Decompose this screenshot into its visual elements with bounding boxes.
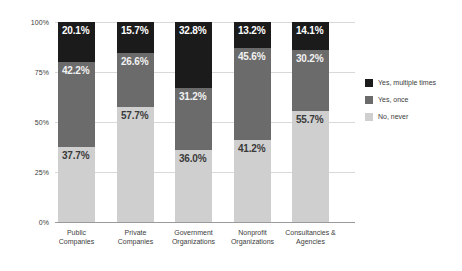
legend-swatch-icon bbox=[365, 96, 373, 104]
legend-item[interactable]: Yes, multiple times bbox=[365, 76, 436, 89]
legend-swatch-icon bbox=[365, 79, 373, 87]
legend-area: Yes, multiple timesYes, onceNo, never bbox=[0, 0, 462, 271]
legend-item-label: Yes, multiple times bbox=[378, 79, 436, 86]
legend-item-label: No, never bbox=[378, 113, 408, 120]
stacked-bar-chart: 100%75%50%25%0% 20.1%42.2%37.7%PublicCom… bbox=[0, 0, 462, 271]
legend-item[interactable]: Yes, once bbox=[365, 93, 436, 106]
chart-legend: Yes, multiple timesYes, onceNo, never bbox=[365, 76, 436, 127]
legend-item-label: Yes, once bbox=[378, 96, 409, 103]
legend-swatch-icon bbox=[365, 113, 373, 121]
legend-item[interactable]: No, never bbox=[365, 110, 436, 123]
